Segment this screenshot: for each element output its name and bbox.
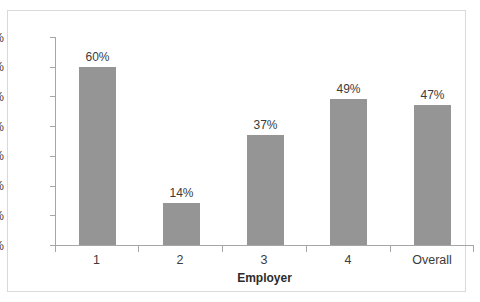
- y-tick-label: 10%: [0, 210, 4, 222]
- y-tick-50: 50%: [8, 96, 55, 97]
- x-tick-boundary: [473, 246, 474, 252]
- y-tick-label: 20%: [0, 180, 4, 192]
- x-category-label-2: 2: [138, 254, 222, 267]
- y-tick-label: 70%: [0, 32, 4, 44]
- y-tick-label: 0%: [0, 240, 4, 252]
- y-tick-40: 40%: [8, 126, 55, 127]
- y-tick-60: 60%: [8, 67, 55, 68]
- bar-overall[interactable]: [414, 105, 451, 245]
- y-tick-label: 30%: [0, 150, 4, 162]
- caption-strip: [8, 296, 472, 302]
- y-tick-0: 0%: [8, 245, 55, 246]
- bar-value-label-2: 14%: [163, 187, 200, 199]
- y-tick-label: 50%: [0, 91, 4, 103]
- x-tick-boundary: [306, 246, 307, 252]
- plot-area: 60% 14% 37% 49% 47%: [55, 37, 474, 245]
- y-tick-20: 20%: [8, 186, 55, 187]
- x-tick-boundary: [55, 246, 56, 252]
- bar-employer-3[interactable]: [247, 135, 284, 245]
- bar-employer-1[interactable]: [79, 67, 116, 245]
- bar-value-label-4: 49%: [330, 83, 367, 95]
- y-tick-label: 40%: [0, 121, 4, 133]
- bar-value-label-3: 37%: [247, 119, 284, 131]
- y-tick-10: 10%: [8, 215, 55, 216]
- bar-value-label-overall: 47%: [414, 89, 451, 101]
- x-axis-line: [55, 245, 474, 246]
- y-tick-label: 60%: [0, 61, 4, 73]
- x-category-label-3: 3: [222, 254, 306, 267]
- figure: 70% 60% 50% 40% 30% 20% 10% 0%: [0, 0, 480, 302]
- bar-employer-4[interactable]: [330, 99, 367, 245]
- x-tick-boundary: [138, 246, 139, 252]
- bar-value-label-1: 60%: [79, 51, 116, 63]
- x-axis-title: Employer: [55, 272, 474, 284]
- x-tick-boundary: [390, 246, 391, 252]
- x-tick-boundary: [222, 246, 223, 252]
- bar-employer-2[interactable]: [163, 203, 200, 245]
- x-category-label-1: 1: [55, 254, 138, 267]
- x-category-label-4: 4: [306, 254, 390, 267]
- y-tick-30: 30%: [8, 156, 55, 157]
- y-tick-70: 70%: [8, 37, 55, 38]
- x-category-label-overall: Overall: [390, 254, 474, 267]
- chart-frame: 70% 60% 50% 40% 30% 20% 10% 0%: [7, 10, 466, 292]
